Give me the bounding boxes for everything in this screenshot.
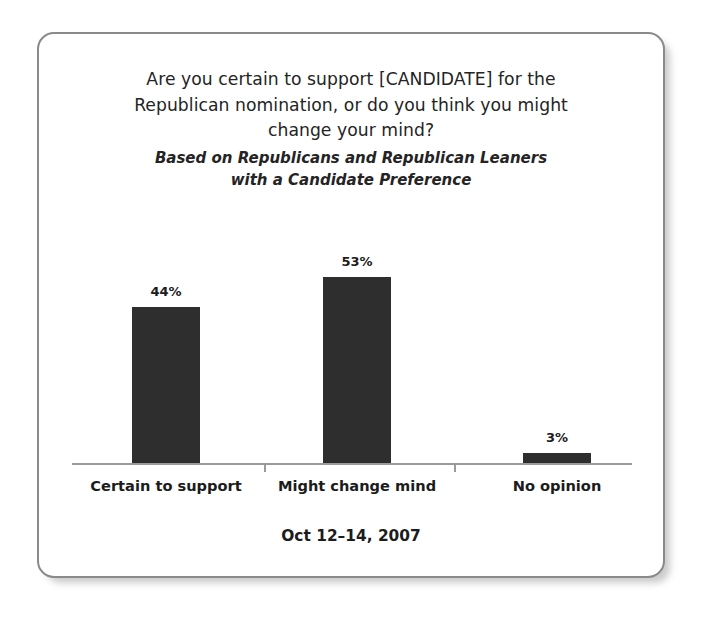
chart-title-block: Are you certain to support [CANDIDATE] f… [39,67,663,191]
chart-subtitle-line-1: Based on Republicans and Republican Lean… [39,147,663,169]
chart-screenshot: Are you certain to support [CANDIDATE] f… [0,0,701,631]
plot-area: 44% 53% 3% [72,214,632,463]
x-axis-label-might-change-mind: Might change mind [257,477,457,494]
x-axis-labels: Certain to support Might change mind No … [72,477,632,501]
chart-date-caption: Oct 12–14, 2007 [39,527,663,545]
bar-value-might-change-mind: 53% [307,254,407,269]
bar-certain-to-support[interactable] [132,307,200,463]
chart-title-line-1: Are you certain to support [CANDIDATE] f… [39,67,663,93]
bar-no-opinion[interactable] [523,453,591,463]
x-axis-label-no-opinion: No opinion [457,477,657,494]
bar-might-change-mind[interactable] [323,277,391,463]
axis-tick-2 [454,464,456,472]
axis-tick-1 [264,464,266,472]
chart-title-line-3: change your mind? [39,118,663,144]
chart-subtitle-line-2: with a Candidate Preference [39,169,663,191]
chart-subtitle-block: Based on Republicans and Republican Lean… [39,147,663,191]
x-axis-line [72,463,632,465]
chart-title-line-2: Republican nomination, or do you think y… [39,93,663,119]
chart-card: Are you certain to support [CANDIDATE] f… [37,32,665,578]
bar-value-certain-to-support: 44% [116,284,216,299]
bar-value-no-opinion: 3% [507,430,607,445]
x-axis-label-certain-to-support: Certain to support [66,477,266,494]
